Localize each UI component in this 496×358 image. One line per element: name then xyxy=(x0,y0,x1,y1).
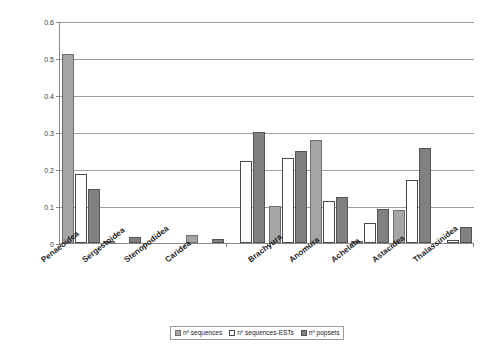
y-tick-label: 0.2 xyxy=(44,167,54,174)
bar xyxy=(88,189,100,243)
bar xyxy=(253,132,265,243)
bar xyxy=(447,240,459,243)
bar xyxy=(336,197,348,243)
y-tick-label: 0.1 xyxy=(44,204,54,211)
bar xyxy=(377,209,389,243)
bar xyxy=(212,239,224,243)
bar-group xyxy=(60,21,101,243)
legend-label: nº sequences-ESTs xyxy=(237,330,294,337)
bar-group xyxy=(184,21,225,243)
bar xyxy=(282,158,294,243)
plot-area: 00.10.20.30.40.50.6 xyxy=(59,22,473,244)
bar xyxy=(460,227,472,243)
y-tick-label: 0.4 xyxy=(44,93,54,100)
bar-group xyxy=(433,21,474,243)
legend-item[interactable]: nº sequences-ESTs xyxy=(229,330,294,337)
legend-item[interactable]: nº sequences xyxy=(175,330,222,337)
legend-swatch xyxy=(301,330,307,336)
bar-group xyxy=(143,21,184,243)
x-tick-mark xyxy=(473,243,474,247)
legend-swatch xyxy=(175,330,181,336)
bar-group xyxy=(350,21,391,243)
bar xyxy=(364,223,376,243)
legend-item[interactable]: nº popsets xyxy=(301,330,340,337)
legend-label: nº sequences xyxy=(183,330,222,337)
legend-swatch xyxy=(229,330,235,336)
bar xyxy=(323,201,335,243)
y-tick-label: 0.6 xyxy=(44,19,54,26)
bar xyxy=(406,180,418,243)
bar-chart: 00.10.20.30.40.50.6 nº sequencesnº seque… xyxy=(0,0,496,358)
bar xyxy=(240,161,252,243)
y-tick-label: 0.5 xyxy=(44,56,54,63)
bar-group xyxy=(101,21,142,243)
bar-group xyxy=(308,21,349,243)
x-tick-mark xyxy=(226,243,227,247)
bar-group xyxy=(391,21,432,243)
bar xyxy=(129,237,141,243)
bar-group xyxy=(226,21,267,243)
chart-legend: nº sequencesnº sequences-ESTsnº popsets xyxy=(170,326,344,340)
bar xyxy=(310,140,322,243)
y-tick-label: 0.3 xyxy=(44,130,54,137)
bar xyxy=(62,54,74,243)
legend-label: nº popsets xyxy=(309,330,340,337)
bar xyxy=(295,151,307,243)
bar-group xyxy=(267,21,308,243)
bar xyxy=(419,148,431,243)
